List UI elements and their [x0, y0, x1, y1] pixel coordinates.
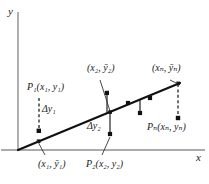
leader-line-p2 — [102, 137, 110, 155]
data-point-c — [126, 101, 130, 105]
data-point-d — [138, 111, 142, 115]
regression-figure: y x P₁(x₁, y₁) Δy₁ (x₁, ȳ₁) (x₂, ȳ₂) Δy₂… — [0, 0, 209, 184]
leader-line-x2 — [100, 80, 110, 111]
fitted-label-1: (x₁, ȳ₁) — [38, 159, 66, 169]
data-point-n — [176, 116, 180, 120]
deviation-label-1: Δy₁ — [42, 104, 56, 114]
deviation-label-2: Δy₂ — [87, 121, 101, 131]
data-point-a — [105, 91, 109, 95]
data-point-1 — [37, 129, 41, 133]
fitted-label-n: (xₙ, ȳₙ) — [152, 63, 181, 73]
fitted-label-2: (x₂, ȳ₂) — [87, 63, 115, 73]
leader-line-x1 — [37, 140, 45, 155]
figure-canvas — [0, 0, 209, 184]
y-axis-label: y — [8, 6, 13, 17]
regression-line — [18, 83, 180, 150]
point-label-p1: P₁(x₁, y₁) — [27, 82, 64, 92]
data-point-e — [148, 96, 152, 100]
data-point-2 — [108, 132, 112, 136]
point-label-pn: Pₙ(xₙ, yₙ) — [147, 122, 186, 132]
x-axis-label: x — [196, 152, 201, 163]
point-label-p2: P₂(x₂, y₂) — [86, 159, 123, 169]
